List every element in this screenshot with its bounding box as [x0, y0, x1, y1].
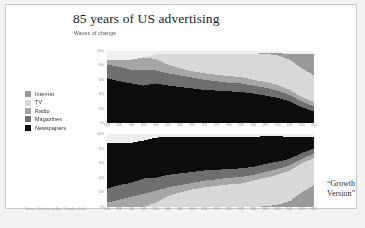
x-tick-label: 1995: [262, 208, 268, 211]
x-tick-label: 2010: [299, 124, 305, 127]
x-tick-label: 1965: [189, 208, 195, 211]
legend-swatch-icon: [25, 100, 31, 106]
slide-page: 85 years of US advertising Waves of chan…: [0, 0, 365, 228]
legend-item-label: Internet: [35, 90, 54, 98]
chart-legend: InternetTVRadioMagazinesNewspapers: [25, 90, 95, 132]
x-tick-label: 1975: [214, 208, 220, 211]
x-tick-label: 1990: [250, 124, 256, 127]
x-tick-label: 1960: [177, 124, 183, 127]
legend-item-magazines[interactable]: Magazines: [25, 115, 95, 123]
page-title: 85 years of US advertising: [73, 11, 220, 27]
x-tick-label: 2015: [311, 208, 317, 211]
legend-swatch-icon: [25, 91, 31, 97]
growth-version-annotation: “Growth Version”: [313, 179, 365, 199]
x-tick-label: 1945: [141, 208, 147, 211]
legend-item-label: TV: [35, 98, 42, 106]
x-tick-label: 1965: [189, 124, 195, 127]
x-tick-label: 1960: [177, 208, 183, 211]
y-axis-top: 0%20%40%60%80%100%: [90, 51, 105, 123]
legend-item-label: Magazines: [35, 115, 62, 123]
x-tick-label: 1930: [104, 124, 110, 127]
x-tick-label: 2010: [299, 208, 305, 211]
y-tick-label: 60%: [99, 162, 104, 165]
x-tick-label: 2005: [287, 208, 293, 211]
x-axis-top: 1930193519401945195019551960196519701975…: [107, 123, 314, 130]
y-tick-label: 20%: [99, 107, 104, 110]
y-tick-label: 100%: [97, 133, 104, 136]
x-tick-label: 1950: [153, 124, 159, 127]
legend-item-newspapers[interactable]: Newspapers: [25, 124, 95, 132]
y-tick-label: 60%: [99, 78, 104, 81]
x-tick-label: 1990: [250, 208, 256, 211]
y-tick-label: 40%: [99, 93, 104, 96]
growth-note-line-2: Version”: [313, 189, 365, 199]
growth-note-line-1: “Growth: [313, 179, 365, 189]
y-tick-label: 100%: [97, 50, 104, 53]
x-tick-label: 1930: [104, 208, 110, 211]
x-tick-label: 1955: [165, 208, 171, 211]
x-tick-label: 1945: [141, 124, 147, 127]
page-background-text: [6, 214, 359, 226]
x-tick-label: 2000: [275, 124, 281, 127]
x-tick-label: 1980: [226, 208, 232, 211]
legend-swatch-icon: [25, 125, 31, 131]
x-tick-label: 1970: [202, 208, 208, 211]
x-tick-label: 1980: [226, 124, 232, 127]
chart-share-version[interactable]: 0%20%40%60%80%100% 193019351940194519501…: [90, 51, 314, 130]
x-tick-label: 2005: [287, 124, 293, 127]
plot-area-bottom: [107, 134, 314, 207]
legend-item-radio[interactable]: Radio: [25, 107, 95, 115]
plot-area-top: [107, 51, 314, 123]
legend-item-label: Radio: [35, 107, 50, 115]
x-tick-label: 2000: [275, 208, 281, 211]
x-tick-label: 2015: [311, 124, 317, 127]
chart-growth-version[interactable]: 0%20%40%60%80%100% 193019351940194519501…: [90, 134, 314, 214]
source-credit: Source: Advertising Age / Douglas Galbi: [25, 207, 86, 211]
area-chart-bottom: [107, 134, 314, 207]
y-tick-label: 20%: [99, 191, 104, 194]
x-tick-label: 1985: [238, 208, 244, 211]
legend-item-tv[interactable]: TV: [25, 98, 95, 106]
x-tick-label: 1975: [214, 124, 220, 127]
y-axis-bottom: 0%20%40%60%80%100%: [90, 134, 105, 207]
x-tick-label: 1935: [116, 208, 122, 211]
legend-swatch-icon: [25, 116, 31, 122]
page-subtitle: Waves of change: [74, 30, 116, 36]
y-tick-label: 80%: [99, 64, 104, 67]
legend-item-internet[interactable]: Internet: [25, 90, 95, 98]
y-tick-label: 40%: [99, 176, 104, 179]
legend-swatch-icon: [25, 108, 31, 114]
y-tick-label: 80%: [99, 147, 104, 150]
x-tick-label: 1940: [128, 124, 134, 127]
x-tick-label: 1955: [165, 124, 171, 127]
legend-item-label: Newspapers: [35, 124, 66, 132]
x-tick-label: 1985: [238, 124, 244, 127]
x-tick-label: 1940: [128, 208, 134, 211]
x-tick-label: 1970: [202, 124, 208, 127]
slide-card: 85 years of US advertising Waves of chan…: [5, 4, 357, 209]
area-chart-top: [107, 51, 314, 123]
x-axis-bottom: 1930193519401945195019551960196519701975…: [107, 207, 314, 214]
x-tick-label: 1935: [116, 124, 122, 127]
x-tick-label: 1995: [262, 124, 268, 127]
x-tick-label: 1950: [153, 208, 159, 211]
